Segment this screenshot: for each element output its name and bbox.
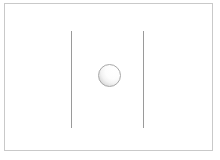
right-vertical-line bbox=[143, 31, 144, 128]
shaded-sphere bbox=[98, 64, 121, 87]
figure-canvas bbox=[0, 0, 220, 160]
left-vertical-line bbox=[71, 31, 72, 128]
